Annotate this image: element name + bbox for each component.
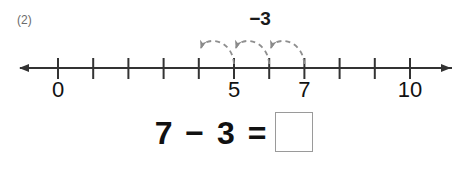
jump-arc-6-to-5 [236, 41, 269, 64]
tick-label-7: 7 [298, 77, 310, 102]
jump-arc-7-to-6 [271, 41, 304, 64]
jump-total-label: −3 [249, 8, 271, 29]
answer-input-box[interactable] [275, 112, 313, 152]
tick-label-0: 0 [52, 77, 64, 102]
number-line-worksheet: (2) [0, 0, 468, 178]
jump-arc-5-to-4 [201, 41, 234, 64]
jump-arcs-group [201, 41, 304, 64]
tick-label-10: 10 [398, 77, 422, 102]
equation-row: 7 − 3 = [0, 112, 468, 152]
equation-expression: 7 − 3 = [155, 117, 269, 149]
tick-label-5: 5 [228, 77, 240, 102]
number-line-diagram: 0 5 7 10 −3 [0, 0, 468, 112]
